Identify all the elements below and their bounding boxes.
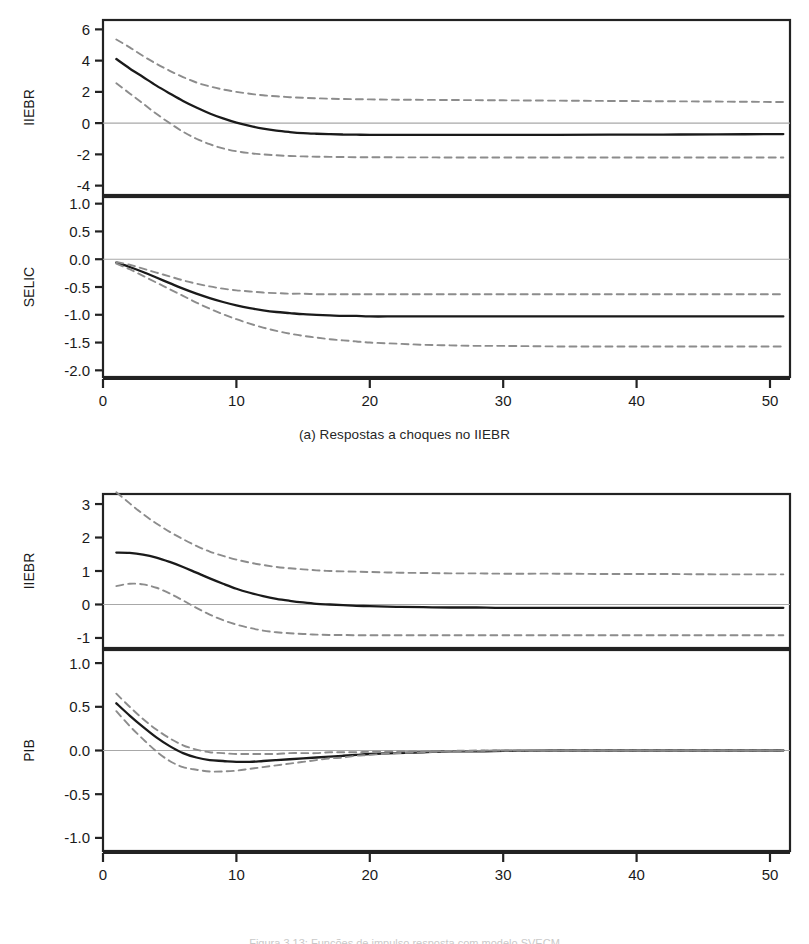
- figure-a-caption: (a) Respostas a choques no IIEBR: [0, 427, 809, 442]
- x-tick-label: 30: [495, 866, 512, 883]
- x-tick-label: 10: [228, 392, 245, 409]
- x-tick-label: 0: [99, 392, 107, 409]
- y-tick-label: -0.5: [64, 279, 90, 296]
- y-tick-label: 0.0: [69, 742, 90, 759]
- y-tick-label: -1: [77, 629, 90, 646]
- panel-selic: 1.00.50.0-0.5-1.0-1.5-2.0SELIC: [21, 195, 790, 379]
- x-tick-label: 50: [762, 866, 779, 883]
- y-tick-label: 6: [82, 21, 90, 38]
- chart-b-svg: 3210-1IIEBR1.00.50.0-0.5-1.0PIB010203040…: [0, 460, 809, 890]
- y-tick-label: 1.0: [69, 195, 90, 212]
- x-tick-label: 40: [628, 392, 645, 409]
- x-tick-label: 10: [228, 866, 245, 883]
- y-tick-label: -2.0: [64, 362, 90, 379]
- panel-pib: 1.00.50.0-0.5-1.0PIB: [21, 650, 790, 851]
- x-tick-label: 30: [495, 392, 512, 409]
- figure-footer-note: Figura 3.13: Funções de impulso resposta…: [0, 934, 809, 944]
- y-axis-title: SELIC: [21, 267, 37, 307]
- x-tick-label: 20: [361, 392, 378, 409]
- y-tick-label: -1.0: [64, 829, 90, 846]
- x-tick-label: 0: [99, 866, 107, 883]
- y-tick-label: 0: [82, 596, 90, 613]
- y-tick-label: -2: [77, 146, 90, 163]
- y-axis-title: PIB: [21, 739, 37, 762]
- panel-iiebr: 3210-1IIEBR: [21, 492, 790, 648]
- x-tick-label: 20: [361, 866, 378, 883]
- x-tick-label: 50: [762, 392, 779, 409]
- y-tick-label: 0.5: [69, 223, 90, 240]
- plot-frame: [103, 494, 790, 648]
- y-axis-title: IIEBR: [21, 89, 37, 126]
- figure-b-impulse-response: 3210-1IIEBR1.00.50.0-0.5-1.0PIB010203040…: [0, 460, 809, 944]
- y-tick-label: -0.5: [64, 786, 90, 803]
- y-tick-label: -1.5: [64, 334, 90, 351]
- y-tick-label: 0.0: [69, 251, 90, 268]
- x-tick-label: 40: [628, 866, 645, 883]
- plot-frame: [103, 197, 790, 377]
- y-tick-label: 3: [82, 496, 90, 513]
- y-tick-label: 2: [82, 83, 90, 100]
- y-tick-label: 0.5: [69, 698, 90, 715]
- plot-frame: [103, 20, 790, 195]
- y-tick-label: 2: [82, 529, 90, 546]
- y-tick-label: -1.0: [64, 306, 90, 323]
- y-tick-label: 4: [82, 52, 90, 69]
- y-tick-label: 1: [82, 563, 90, 580]
- figure-a-impulse-response: 6420-2-4IIEBR1.00.50.0-0.5-1.0-1.5-2.0SE…: [0, 0, 809, 460]
- y-axis-title: IIEBR: [21, 553, 37, 590]
- panel-iiebr: 6420-2-4IIEBR: [21, 20, 790, 195]
- y-tick-label: -4: [77, 177, 90, 194]
- y-tick-label: 1.0: [69, 655, 90, 672]
- chart-a-svg: 6420-2-4IIEBR1.00.50.0-0.5-1.0-1.5-2.0SE…: [0, 0, 809, 420]
- y-tick-label: 0: [82, 115, 90, 132]
